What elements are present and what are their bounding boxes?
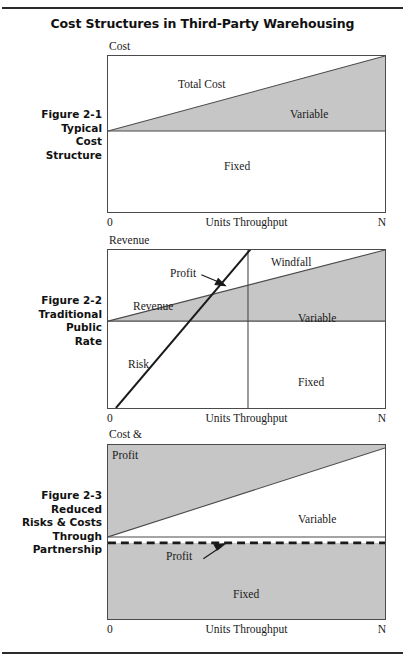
figure-2-2-plot-area: Windfall Profit Revenue Variable Risk Fi… [107, 249, 386, 409]
bottom-divider-rule [2, 652, 403, 654]
label-total-cost: Total Cost [178, 78, 225, 90]
figure-2-1-plot-area: Total Cost Variable Fixed [107, 55, 386, 213]
x-axis-max: N [378, 412, 386, 424]
label-variable: Variable [298, 312, 336, 324]
figure-2-2-chart [108, 250, 385, 408]
profit-arrow-icon [201, 275, 225, 286]
fixed-cost-block [108, 543, 385, 619]
x-axis-title: Units Throughput [107, 623, 386, 635]
figure-2-2: Figure 2-2 Traditional Public Rate Reven… [0, 232, 405, 428]
label-risk: Risk [128, 358, 149, 370]
caption-line: Public [6, 321, 102, 335]
label-fixed: Fixed [224, 160, 250, 172]
x-axis-title: Units Throughput [107, 412, 386, 424]
label-fixed: Fixed [233, 588, 259, 600]
caption-line: Risks & Costs [6, 516, 102, 530]
x-axis-max: N [378, 216, 386, 228]
figure-2-2-caption: Figure 2-2 Traditional Public Rate [6, 294, 102, 348]
figure-2-3-caption: Figure 2-3 Reduced Risks & Costs Through… [6, 489, 102, 557]
top-divider-rule [2, 7, 403, 9]
figure-2-3-plot-area: Profit Variable Profit Fixed [107, 444, 386, 620]
figure-2-3-y-axis-label: Cost & [109, 428, 142, 440]
label-revenue: Revenue [133, 300, 173, 312]
figure-2-1-chart [108, 56, 385, 212]
label-variable: Variable [298, 513, 336, 525]
caption-line: Reduced [6, 503, 102, 517]
caption-line: Cost [6, 135, 102, 149]
figure-2-1-caption: Figure 2-1 Typical Cost Structure [6, 108, 102, 162]
caption-line: Through [6, 530, 102, 544]
figure-2-3: Figure 2-3 Reduced Risks & Costs Through… [0, 424, 405, 639]
caption-line: Partnership [6, 543, 102, 557]
figure-2-2-y-axis-label: Revenue [109, 234, 149, 246]
caption-line: Figure 2-1 [6, 108, 102, 122]
caption-line: Figure 2-3 [6, 489, 102, 503]
x-axis-title: Units Throughput [107, 216, 386, 228]
caption-line: Rate [6, 335, 102, 349]
caption-line: Structure [6, 149, 102, 163]
page-title: Cost Structures in Third-Party Warehousi… [0, 16, 405, 31]
label-profit-top: Profit [112, 449, 138, 461]
figure-2-1: Figure 2-1 Typical Cost Structure Cost T… [0, 40, 405, 235]
x-axis-max: N [378, 623, 386, 635]
label-profit: Profit [166, 550, 192, 562]
label-profit: Profit [170, 267, 196, 279]
label-fixed: Fixed [298, 376, 324, 388]
figure-page: Cost Structures in Third-Party Warehousi… [0, 0, 405, 663]
caption-line: Typical [6, 122, 102, 136]
figure-2-1-y-axis-label: Cost [109, 40, 130, 52]
label-windfall: Windfall [271, 256, 311, 268]
label-variable: Variable [290, 108, 328, 120]
caption-line: Figure 2-2 [6, 294, 102, 308]
caption-line: Traditional [6, 308, 102, 322]
